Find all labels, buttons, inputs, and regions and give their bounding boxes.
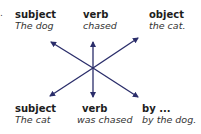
arrow-to-bottom-subject-icon	[50, 68, 93, 96]
arrow-to-top-subject-icon	[51, 42, 93, 68]
arrow-lines	[50, 38, 138, 97]
arrow-to-top-object-icon	[93, 38, 138, 68]
transformation-arrows	[0, 0, 201, 134]
arrow-to-bottom-agent-icon	[93, 68, 138, 97]
